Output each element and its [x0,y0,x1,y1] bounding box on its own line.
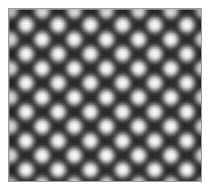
pattern-plate-frame [8,8,202,182]
figure-root [0,0,211,192]
pattern-soften-layer [9,9,201,181]
